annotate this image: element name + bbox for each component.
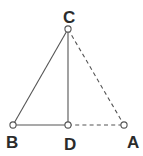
segment-b-c (13, 29, 68, 125)
vertex-label-b: B (6, 133, 18, 152)
vertex-label-d: D (64, 135, 76, 154)
vertex-marker-d (65, 122, 71, 128)
vertex-label-a: A (127, 133, 139, 152)
segment-c-a (68, 29, 124, 125)
vertex-marker-b (10, 122, 16, 128)
vertex-label-c: C (63, 8, 75, 27)
triangle-diagram: C B D A (0, 0, 143, 156)
vertex-marker-a (121, 122, 127, 128)
